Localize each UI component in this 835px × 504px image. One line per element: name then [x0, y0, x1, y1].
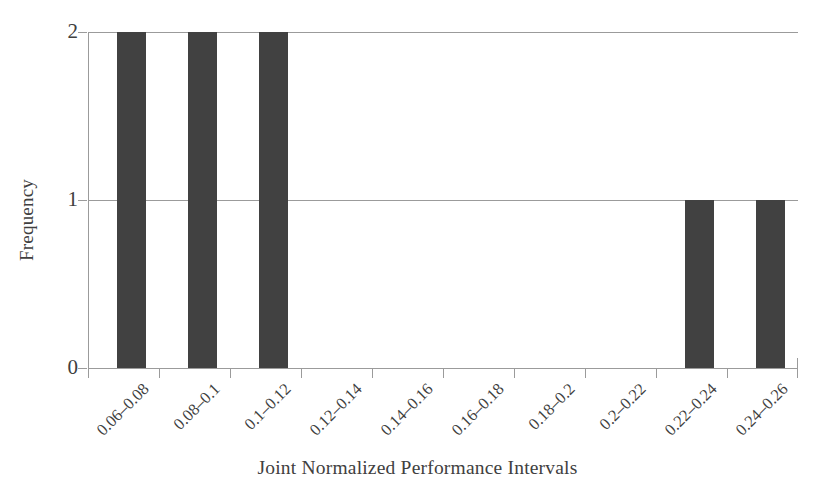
y-tick-mark [78, 200, 87, 201]
y-tick-label: 1 [38, 189, 78, 210]
x-tick-label: 0.24–0.26 [732, 380, 791, 439]
y-tick-label: 0 [38, 357, 78, 378]
x-tick-label: 0.1–0.12 [241, 380, 294, 433]
y-tick-mark [78, 368, 87, 369]
x-tick-label: 0.14–0.16 [377, 380, 436, 439]
x-tick-label: 0.18–0.2 [525, 380, 578, 433]
bar [756, 200, 785, 368]
x-axis-tick-labels: 0.06–0.080.08–0.10.1–0.120.12–0.140.14–0… [88, 368, 798, 458]
x-tick-label: 0.22–0.24 [661, 380, 720, 439]
bar [188, 32, 217, 368]
y-axis-ticks: 012 [18, 0, 78, 504]
histogram-chart: Frequency 012 0.06–0.080.08–0.10.1–0.120… [0, 0, 835, 504]
bar [685, 200, 714, 368]
x-tick-label: 0.16–0.18 [448, 380, 507, 439]
x-tick-label: 0.06–0.08 [93, 380, 152, 439]
x-axis-title: Joint Normalized Performance Intervals [0, 457, 835, 479]
x-tick-label: 0.08–0.1 [170, 380, 223, 433]
y-tick-mark [78, 32, 87, 33]
y-tick-label: 2 [38, 21, 78, 42]
bar [259, 32, 288, 368]
x-tick-label: 0.2–0.22 [596, 380, 649, 433]
plot-area [88, 32, 798, 368]
bars-layer [88, 32, 798, 368]
x-tick-label: 0.12–0.14 [306, 380, 365, 439]
bar [117, 32, 146, 368]
